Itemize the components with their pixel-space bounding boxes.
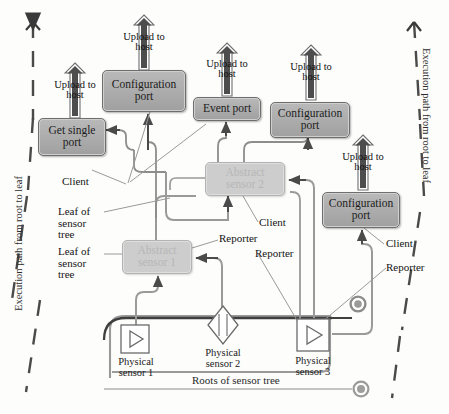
- upload-label-line2: host: [218, 69, 236, 79]
- physical-sensor-3[interactable]: Physical sensor 3: [296, 318, 330, 384]
- physical-sensor-2-label-line1: Physical: [205, 347, 241, 358]
- event-port-node[interactable]: Event port: [193, 97, 261, 121]
- square-triangle-icon: [296, 318, 330, 352]
- execution-path-left-label: Execution path from root to leaf: [13, 176, 24, 311]
- roots-caption-marker: [354, 382, 369, 397]
- get-single-port-label-line2: port: [49, 137, 96, 149]
- wire-as1-up-trunk: [148, 138, 156, 218]
- upload-label-line2: host: [302, 72, 320, 82]
- upload-label-line2: host: [135, 42, 153, 52]
- upload-label-line2: host: [354, 162, 372, 172]
- upload-to-host-arrow-configuration-port-1: Upload to host: [133, 14, 155, 72]
- leader-reporter-1: [192, 240, 218, 248]
- execution-path-right-label: Execution path from root to leaf: [421, 48, 432, 183]
- physical-sensor-3-label-line1: Physical: [295, 355, 331, 366]
- annotation-reporter-2: Reporter: [255, 248, 293, 260]
- abstract-sensor-2-node[interactable]: Abstract sensor 2: [205, 162, 285, 196]
- wire-as2-to-event-port-path: [218, 126, 226, 162]
- abstract-sensor-2-label-line2: sensor 2: [226, 179, 265, 191]
- annotation-client-3: Client: [386, 238, 413, 250]
- wire-as1-to-trunk: [156, 196, 196, 240]
- upload-to-host-arrow-configuration-port-2: Upload to host: [300, 44, 322, 102]
- leader-reporter-2: [258, 254, 298, 322]
- configuration-port-2-label-line2: port: [278, 120, 343, 132]
- leader-client-3: [364, 228, 384, 244]
- annotation-client-1: Client: [62, 176, 89, 188]
- wire-branch-to-get-single-port: [110, 130, 134, 150]
- leader-leaf-1: [104, 198, 170, 212]
- configuration-port-2-node[interactable]: Configuration port: [270, 102, 350, 138]
- annotation-leaf-of-sensor-tree-2: Leaf of sensor tree: [58, 246, 104, 281]
- wire-as2-left-leg: [170, 178, 205, 190]
- leader-client-2: [243, 196, 258, 222]
- leader-client-1-a: [92, 170, 126, 184]
- get-single-port-node[interactable]: Get single port: [38, 118, 106, 156]
- physical-sensor-2-label-line2: sensor 2: [206, 358, 241, 369]
- leader-client-1-c: [130, 124, 206, 182]
- annotation-roots-of-sensor-tree: Roots of sensor tree: [192, 374, 280, 386]
- upload-to-host-arrow-configuration-port-3: Upload to host: [352, 134, 374, 192]
- annotation-leaf-of-sensor-tree-1: Leaf of sensor tree: [58, 206, 104, 241]
- wire-as2-to-config2-path: [244, 136, 308, 162]
- upload-to-host-arrow-event-port: Upload to host: [216, 42, 238, 98]
- annotation-reporter-3: Reporter: [386, 262, 424, 274]
- event-port-label-line1: Event port: [203, 103, 251, 115]
- square-triangle-icon: [120, 324, 152, 354]
- abstract-sensor-1-node[interactable]: Abstract sensor 1: [122, 240, 192, 274]
- root-terminator-marker: [351, 297, 366, 312]
- configuration-port-3-node[interactable]: Configuration port: [322, 192, 400, 228]
- configuration-port-3-label-line2: port: [329, 210, 394, 222]
- wire-ps3-to-config3-path: [362, 232, 372, 334]
- leader-reporter-3: [322, 268, 386, 322]
- physical-sensor-3-label-line2: sensor 3: [296, 366, 331, 377]
- configuration-port-1-node[interactable]: Configuration port: [102, 70, 186, 112]
- upload-label-line2: host: [66, 90, 84, 100]
- physical-sensor-1[interactable]: Physical sensor 1: [120, 324, 152, 384]
- diamond-icon: [206, 304, 240, 346]
- physical-sensor-1-label-line1: Physical: [118, 356, 154, 367]
- annotation-client-2: Client: [259, 217, 286, 229]
- physical-sensor-1-label-line2: sensor 1: [119, 367, 154, 378]
- physical-sensor-2[interactable]: Physical sensor 2: [206, 304, 240, 374]
- annotation-reporter-1: Reporter: [219, 233, 257, 245]
- abstract-sensor-1-label-line2: sensor 1: [138, 257, 177, 269]
- configuration-port-1-label-line2: port: [112, 91, 177, 103]
- diagram-canvas: Upload to host Upload to host Upload to …: [0, 0, 449, 414]
- upload-to-host-arrow-get-single-port: Upload to host: [64, 62, 86, 120]
